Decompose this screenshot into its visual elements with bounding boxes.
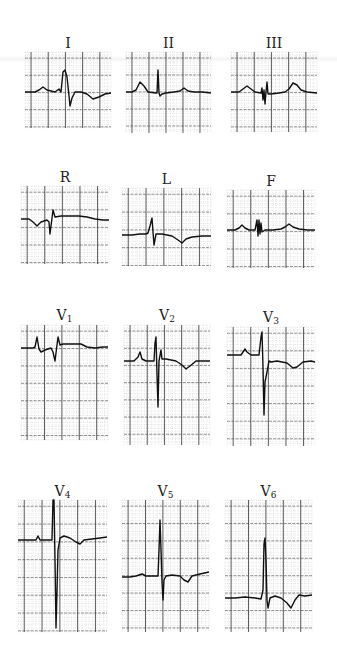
ecg-strip	[122, 188, 211, 266]
ecg-trace	[231, 82, 317, 104]
ecg-trace	[21, 337, 108, 361]
lead-r: R	[21, 170, 109, 264]
ecg-strip	[122, 500, 209, 632]
lead-label: III	[231, 36, 317, 50]
ecg-strip	[225, 500, 312, 632]
lead-v3: V3	[227, 310, 315, 446]
ecg-strip	[126, 52, 211, 133]
ecg-trace	[227, 220, 315, 236]
lead-label: L	[122, 172, 211, 186]
lead-v6: V6	[225, 484, 312, 632]
lead-label: V3	[227, 310, 315, 328]
lead-v5: V5	[122, 484, 209, 632]
lead-label: II	[126, 36, 211, 50]
lead-v2: V2	[124, 308, 210, 445]
ecg-strip	[231, 52, 317, 132]
lead-v1: V1	[21, 308, 108, 440]
lead-f: F	[227, 174, 315, 268]
lead-l: L	[122, 172, 211, 266]
ecg-strip	[21, 325, 108, 440]
lead-label: F	[227, 174, 315, 188]
ecg-strip	[227, 190, 315, 268]
ecg-strip	[227, 327, 315, 446]
ecg-trace	[124, 337, 210, 407]
ecg-trace	[21, 210, 109, 234]
lead-i: I	[25, 36, 111, 128]
lead-ii: II	[126, 36, 211, 133]
lead-label: V1	[21, 308, 108, 326]
lead-label: V2	[124, 308, 210, 326]
ecg-trace	[122, 520, 209, 600]
ecg-strip	[124, 325, 210, 445]
ecg-strip	[21, 186, 109, 264]
lead-label: I	[25, 36, 111, 50]
ecg-strip	[18, 500, 107, 632]
ecg-trace	[122, 218, 211, 245]
ecg-trace	[225, 538, 312, 608]
lead-label: R	[21, 170, 109, 184]
ecg-strip	[25, 52, 111, 128]
lead-iii: III	[231, 36, 317, 132]
lead-v4: V4	[18, 484, 107, 632]
